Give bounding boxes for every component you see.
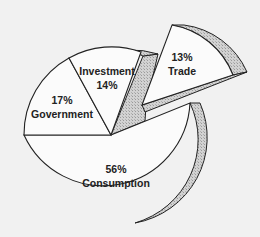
label-trade-name: Trade xyxy=(168,65,196,77)
label-investment-pct: 14% xyxy=(96,79,118,91)
label-government-name: Government xyxy=(31,108,93,120)
label-consumption-pct: 56% xyxy=(105,163,127,175)
label-investment-name: Investment xyxy=(79,65,135,77)
label-trade-pct: 13% xyxy=(171,51,193,63)
pie-chart: Investment 14% 17% Government 56% Consum… xyxy=(0,0,260,237)
label-government-pct: 17% xyxy=(51,94,73,106)
label-consumption-name: Consumption xyxy=(82,177,150,189)
